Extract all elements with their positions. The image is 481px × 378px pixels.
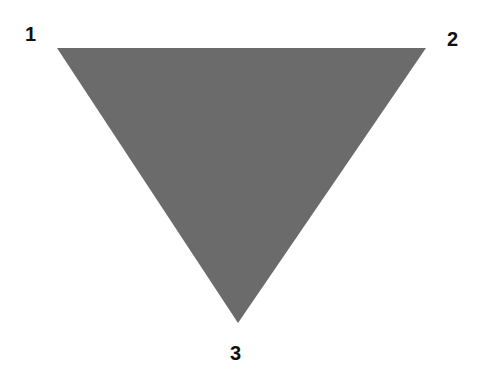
vertex-label-3: 3 bbox=[230, 343, 241, 363]
triangle-diagram bbox=[0, 0, 481, 378]
vertex-label-1: 1 bbox=[25, 24, 36, 44]
triangle bbox=[57, 48, 426, 323]
vertex-label-2: 2 bbox=[447, 29, 458, 49]
